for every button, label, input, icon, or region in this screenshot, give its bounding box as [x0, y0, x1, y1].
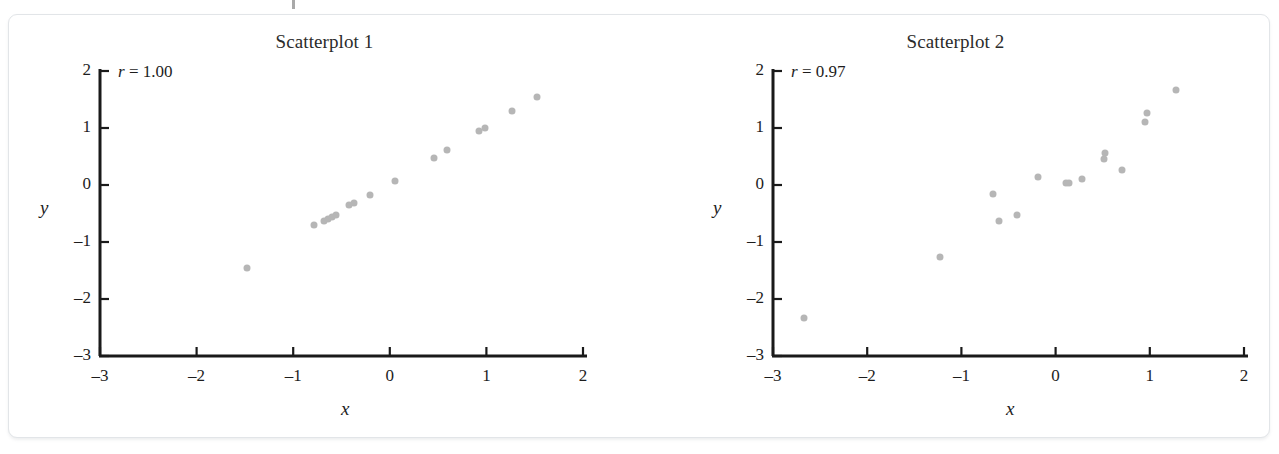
x-tick-label: –2 — [847, 366, 887, 386]
y-axis-label: y — [713, 197, 721, 219]
data-point — [801, 314, 808, 321]
y-tick-label: –2 — [51, 288, 91, 308]
figure-root: Scatterplot 1 –3–2–1012–3–2–1012yxr = 1.… — [0, 0, 1279, 454]
data-point — [332, 211, 339, 218]
cropped-text-artifact — [292, 0, 295, 9]
y-tick-label: 2 — [724, 60, 764, 80]
y-tick-label: 1 — [724, 117, 764, 137]
y-tick-label: –1 — [51, 231, 91, 251]
y-tick-label: –3 — [51, 345, 91, 365]
y-tick-label: 0 — [51, 174, 91, 194]
x-tick-label: –3 — [80, 366, 120, 386]
correlation-annotation: r = 0.97 — [791, 62, 845, 82]
y-axis-label: y — [40, 197, 48, 219]
y-tick-label: 0 — [724, 174, 764, 194]
data-point — [509, 108, 516, 115]
correlation-value: = 1.00 — [125, 62, 173, 81]
data-point — [1034, 174, 1041, 181]
data-point — [351, 200, 358, 207]
x-tick-label: 2 — [563, 366, 603, 386]
y-tick-label: –2 — [724, 288, 764, 308]
correlation-symbol: r — [791, 62, 798, 81]
data-point — [443, 147, 450, 154]
y-tick-label: 1 — [51, 117, 91, 137]
y-tick-label: –3 — [724, 345, 764, 365]
data-point — [366, 192, 373, 199]
data-point — [1013, 212, 1020, 219]
plot-area: –3–2–1012–3–2–1012yxr = 0.97 — [640, 15, 1271, 439]
data-point — [1143, 109, 1150, 116]
y-tick-label: –1 — [724, 231, 764, 251]
data-point — [533, 93, 540, 100]
scatterplot-panel-1: Scatterplot 1 –3–2–1012–3–2–1012yxr = 1.… — [9, 15, 640, 439]
data-point — [1065, 179, 1072, 186]
data-point — [990, 191, 997, 198]
x-tick-label: 1 — [466, 366, 506, 386]
data-point — [1142, 118, 1149, 125]
plot-area: –3–2–1012–3–2–1012yxr = 1.00 — [9, 15, 640, 439]
y-tick-label: 2 — [51, 60, 91, 80]
data-point — [243, 264, 250, 271]
correlation-symbol: r — [118, 62, 125, 81]
scatterplot-panel-2: Scatterplot 2 –3–2–1012–3–2–1012yxr = 0.… — [640, 15, 1271, 439]
x-axis-label: x — [1006, 398, 1014, 420]
x-tick-label: 0 — [1036, 366, 1076, 386]
data-point — [482, 125, 489, 132]
data-point — [391, 178, 398, 185]
correlation-value: = 0.97 — [798, 62, 846, 81]
data-point — [996, 218, 1003, 225]
data-point — [936, 254, 943, 261]
data-point — [431, 154, 438, 161]
figure-card: Scatterplot 1 –3–2–1012–3–2–1012yxr = 1.… — [8, 14, 1270, 438]
data-point — [1119, 166, 1126, 173]
x-tick-label: 0 — [370, 366, 410, 386]
data-point — [1078, 175, 1085, 182]
x-tick-label: 1 — [1130, 366, 1170, 386]
data-point — [311, 222, 318, 229]
data-point — [1173, 86, 1180, 93]
x-tick-label: –2 — [177, 366, 217, 386]
x-tick-label: –3 — [753, 366, 793, 386]
x-axis-label: x — [341, 398, 349, 420]
x-tick-label: –1 — [273, 366, 313, 386]
x-tick-label: –1 — [941, 366, 981, 386]
correlation-annotation: r = 1.00 — [118, 62, 172, 82]
data-point — [1101, 150, 1108, 157]
x-tick-label: 2 — [1224, 366, 1264, 386]
